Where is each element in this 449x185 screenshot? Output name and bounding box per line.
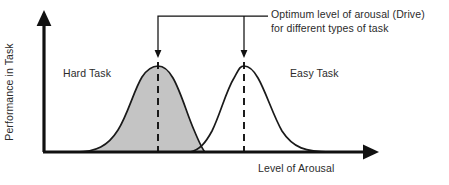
x-axis-label: Level of Arousal [258,162,334,175]
x-axis-arrowhead-icon [363,144,379,159]
annotation-line-1: Optimum level of arousal (Drive) [271,7,425,21]
annotation-leader-line [158,16,268,53]
easy-task-label: Easy Task [290,67,339,80]
optimum-arousal-annotation: Optimum level of arousal (Drive) for dif… [271,7,425,35]
down-arrow-icon-easy [241,50,248,58]
hard-task-label: Hard Task [63,67,111,80]
y-axis-label: Performance in Task [0,84,68,100]
down-arrow-icon-hard [155,50,162,58]
annotation-line-2: for different types of task [271,21,425,35]
y-axis-arrowhead-icon [37,10,52,26]
arousal-performance-diagram: Performance in Task Level of Arousal Har… [0,0,449,185]
y-axis-label-text: Performance in Task [3,43,16,140]
